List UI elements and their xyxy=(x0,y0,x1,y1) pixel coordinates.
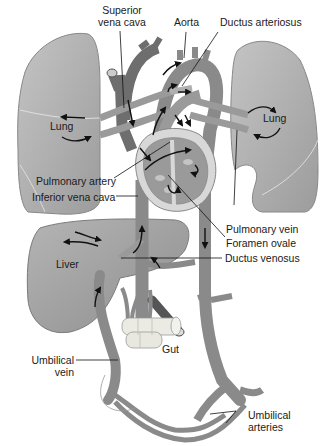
label-gut: Gut xyxy=(162,343,179,355)
label-superior-vena-cava-line2: vena cava xyxy=(94,16,150,28)
fetal-circulation-diagram: Superior vena cava Aorta Ductus arterios… xyxy=(0,0,333,446)
label-foramen-ovale: Foramen ovale xyxy=(226,237,296,249)
label-umbilical-vein: Umbilical vein xyxy=(30,354,74,378)
label-lung-left: Lung xyxy=(50,120,73,132)
label-umbilical-arteries-line2: arteries xyxy=(248,421,291,433)
label-lung-right: Lung xyxy=(263,112,286,124)
label-liver: Liver xyxy=(56,258,79,270)
label-umbilical-vein-line2: vein xyxy=(30,366,74,378)
label-pulmonary-vein: Pulmonary vein xyxy=(226,223,298,235)
label-superior-vena-cava: Superior vena cava xyxy=(94,4,150,28)
label-umbilical-arteries-line1: Umbilical xyxy=(248,409,291,421)
label-umbilical-vein-line1: Umbilical xyxy=(30,354,74,366)
label-inferior-vena-cava: Inferior vena cava xyxy=(32,191,115,203)
label-umbilical-arteries: Umbilical arteries xyxy=(248,409,291,433)
label-aorta: Aorta xyxy=(174,16,199,28)
label-ductus-arteriosus: Ductus arteriosus xyxy=(220,16,302,28)
label-superior-vena-cava-line1: Superior xyxy=(94,4,150,16)
label-ductus-venosus: Ductus venosus xyxy=(225,252,300,264)
descending-aorta xyxy=(205,170,240,400)
label-pulmonary-artery: Pulmonary artery xyxy=(36,175,116,187)
